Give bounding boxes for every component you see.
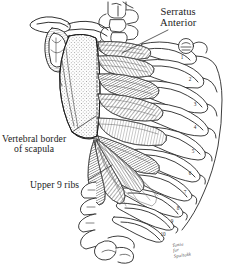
artist-signature: Tonia for Spaltokk	[172, 241, 191, 259]
rib-number-6: 6	[186, 170, 194, 176]
label-serratus-anterior: Serratus Anterior	[160, 6, 196, 29]
scapula	[30, 17, 108, 139]
rib-number-10: 10	[159, 231, 167, 237]
label-upper-9-ribs: Upper 9 ribs	[30, 180, 79, 190]
rib-number-7: 7	[181, 189, 189, 195]
rib-number-2: 2	[186, 76, 194, 82]
manubrium-cross-section	[179, 39, 208, 54]
label-vertebral-border-line2: of scapula	[2, 144, 66, 154]
label-vertebral-border-of-scapula: Vertebral border of scapula	[2, 134, 66, 155]
anatomy-figure: Serratus Anterior Vertebral border of sc…	[0, 0, 233, 271]
rib-number-1: 1	[178, 54, 186, 60]
rib-number-5: 5	[189, 148, 197, 154]
rib-number-8: 8	[174, 205, 182, 211]
rib-number-3: 3	[191, 101, 199, 107]
label-serratus-anterior-line2: Anterior	[160, 17, 196, 28]
label-upper-9-ribs-line1: Upper 9 ribs	[30, 180, 79, 190]
label-serratus-anterior-line1: Serratus	[160, 6, 196, 17]
rib-number-9: 9	[168, 218, 176, 224]
rib-number-4: 4	[191, 124, 199, 130]
